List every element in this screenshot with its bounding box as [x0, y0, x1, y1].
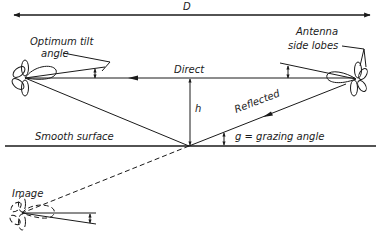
image-path-line: [22, 146, 189, 213]
side-lobes-label-line2: side lobes: [288, 40, 338, 51]
tilt-leader-line: [63, 53, 110, 71]
tilt-label-line2: angle: [41, 48, 69, 59]
side-lobes-leader-line: [364, 49, 366, 67]
antenna-icon: [327, 62, 369, 96]
reflected-arrow-icon: [263, 112, 273, 118]
direct-arrow-icon: [128, 76, 138, 81]
direct-path: Direct: [25, 64, 355, 81]
side-lobe: [11, 64, 27, 79]
distance-label: D: [183, 1, 191, 12]
side-lobe: [357, 67, 369, 81]
surface-label: Smooth surface: [35, 131, 114, 142]
direct-label: Direct: [174, 64, 205, 75]
grazing-label: g = grazing angle: [235, 131, 324, 142]
grazing-angle: g = grazing angle: [224, 131, 324, 145]
height-label: h: [195, 103, 201, 114]
distance-dimension: D: [14, 1, 370, 15]
radar-antenna-left: Optimum tilt angle: [10, 36, 110, 96]
height-dimension: h: [190, 79, 201, 145]
image-antenna: Image: [8, 146, 189, 230]
side-lobe: [351, 80, 358, 96]
image-side-lobe: [19, 214, 26, 230]
reflected-label: Reflected: [233, 87, 282, 115]
side-lobe: [22, 80, 29, 96]
multipath-diagram: D Optimum tilt angle Direct h: [0, 0, 376, 236]
target-antenna-right: Antenna side lobes: [280, 26, 369, 96]
side-lobes-leader-line: [342, 46, 364, 66]
tilt-line: [280, 63, 356, 79]
tilt-label: Optimum tilt: [30, 36, 94, 47]
image-tilt-line: [22, 213, 96, 224]
side-lobes-label: Antenna: [295, 26, 338, 37]
side-lobe: [10, 76, 26, 91]
image-label: Image: [12, 188, 43, 199]
